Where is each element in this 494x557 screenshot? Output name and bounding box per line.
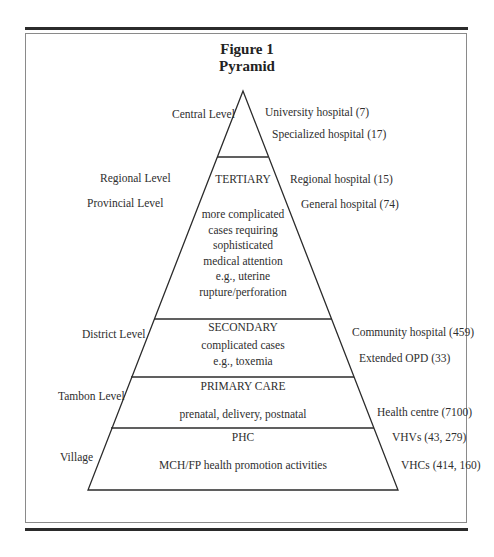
label-central-level: Central Level	[172, 108, 235, 121]
desc-line: more complicated	[173, 207, 313, 223]
label-extended-opd: Extended OPD (33)	[359, 352, 450, 365]
label-regional-hospital: Regional hospital (15)	[290, 173, 393, 186]
desc-line: sophisticated	[173, 238, 313, 254]
layer-title-primary-care: PRIMARY CARE	[183, 380, 303, 392]
desc-line: medical attention	[173, 254, 313, 270]
desc-line: rupture/perforation	[173, 285, 313, 301]
label-tambon-level: Tambon Level	[58, 390, 125, 403]
label-vhcs: VHCs (414, 160)	[401, 459, 481, 472]
label-health-centre: Health centre (7100)	[377, 406, 472, 419]
layer-desc-tertiary: more complicated cases requiring sophist…	[173, 207, 313, 300]
layer-desc-phc: MCH/FP health promotion activities	[133, 458, 353, 474]
layer-desc-primary-care: prenatal, delivery, postnatal	[153, 407, 333, 423]
label-district-level: District Level	[82, 328, 146, 341]
layer-title-phc: PHC	[213, 431, 273, 443]
desc-line: MCH/FP health promotion activities	[133, 458, 353, 474]
label-specialized-hospital: Specialized hospital (17)	[272, 128, 386, 141]
label-vhvs: VHVs (43, 279)	[392, 431, 466, 444]
desc-line: complicated cases	[173, 338, 313, 354]
desc-line: e.g., uterine	[173, 269, 313, 285]
label-provincial-level: Provincial Level	[87, 197, 163, 210]
desc-line: e.g., toxemia	[173, 354, 313, 370]
layer-title-tertiary: TERTIARY	[193, 173, 293, 185]
label-general-hospital: General hospital (74)	[301, 198, 399, 211]
label-regional-level: Regional Level	[100, 172, 171, 185]
layer-desc-secondary: complicated cases e.g., toxemia	[173, 338, 313, 369]
label-village: Village	[60, 451, 93, 464]
desc-line: prenatal, delivery, postnatal	[153, 407, 333, 423]
desc-line: cases requiring	[173, 223, 313, 239]
layer-title-secondary: SECONDARY	[183, 321, 303, 333]
label-community-hospital: Community hospital (459)	[352, 326, 474, 339]
label-university-hospital: University hospital (7)	[265, 106, 369, 119]
